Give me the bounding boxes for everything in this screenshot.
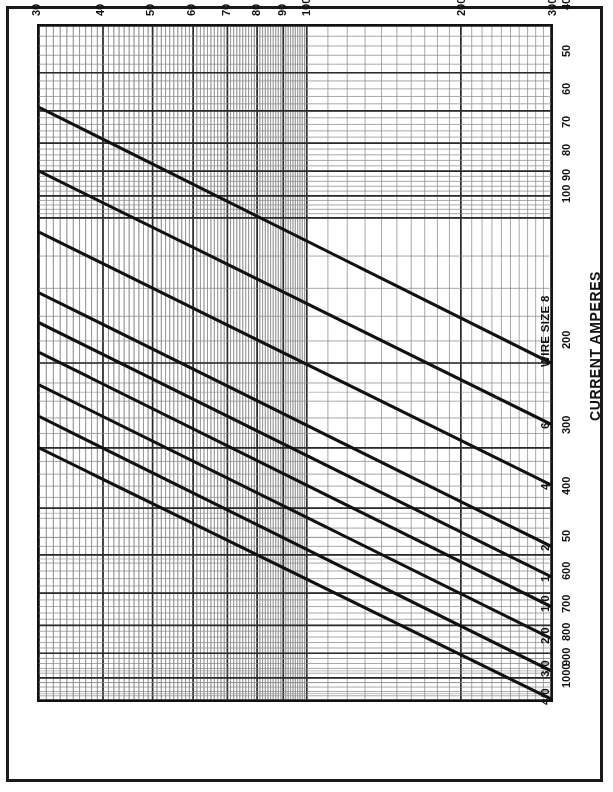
y-axis-tick: 40 <box>561 0 572 10</box>
chart-page: WIRE SIZE 864211/02/03/04/0 405060708090… <box>0 0 613 792</box>
series-line-4-0 <box>39 448 551 699</box>
y-axis-tick: 50 <box>561 530 572 542</box>
y-axis-tick: 1000 <box>561 664 572 688</box>
series-line-3-0 <box>39 416 551 671</box>
series-callout-1-0: 1/0 <box>539 595 551 612</box>
y-axis-title: CURRENT AMPERES <box>587 271 603 421</box>
y-axis-tick: 700 <box>561 595 572 613</box>
series-callout-2: 2 <box>539 545 551 552</box>
series-line-1 <box>39 323 551 577</box>
series-callout-6: 6 <box>539 422 551 429</box>
y-axis-tick: 70 <box>561 116 572 128</box>
rotated-chart-container: WIRE SIZE 864211/02/03/04/0 405060708090… <box>10 10 599 778</box>
y-axis-tick: 400 <box>561 477 572 495</box>
y-axis-tick: 800 <box>561 623 572 641</box>
y-axis-tick: 60 <box>561 83 572 95</box>
x-axis-tick: 40 <box>96 4 107 16</box>
y-axis-tick: 600 <box>561 562 572 580</box>
x-axis-tick: 70 <box>221 4 232 16</box>
y-axis-tick: 50 <box>561 45 572 57</box>
series-line-4 <box>39 232 551 485</box>
x-axis-tick: 60 <box>186 4 197 16</box>
x-axis-tick: 200 <box>456 0 467 16</box>
series-line-2-0 <box>39 385 551 639</box>
y-axis-tick: 80 <box>561 144 572 156</box>
x-axis-tick: 300 <box>547 0 558 16</box>
x-axis-tick: 90 <box>277 4 288 16</box>
series-line-2 <box>39 293 551 547</box>
x-axis-tick: 100 <box>301 0 312 16</box>
series-callout-2-0: 2/0 <box>539 627 551 644</box>
y-axis-tick: 100 <box>561 185 572 203</box>
x-axis-tick: 30 <box>31 4 42 16</box>
series-callout-4: 4 <box>539 483 551 490</box>
series-layer <box>39 26 551 700</box>
x-axis-tick: 50 <box>146 4 157 16</box>
series-callout-1: 1 <box>539 575 551 582</box>
y-axis-tick: 300 <box>561 416 572 434</box>
series-line-8 <box>39 107 551 363</box>
series-line-6 <box>39 171 551 424</box>
y-axis-tick: 90 <box>561 169 572 181</box>
series-line-1-0 <box>39 352 551 606</box>
x-axis-tick: 80 <box>251 4 262 16</box>
plot-area <box>37 24 553 702</box>
series-callout-8: WIRE SIZE 8 <box>539 295 551 367</box>
y-axis-tick: 200 <box>561 331 572 349</box>
series-callout-4-0: 4/0 <box>539 688 551 705</box>
series-callout-3-0: 3/0 <box>539 660 551 677</box>
